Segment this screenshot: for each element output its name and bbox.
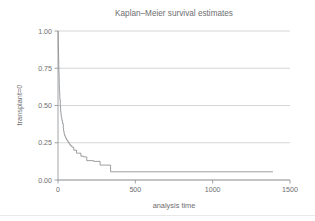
y-axis-title: transplant=0	[15, 85, 24, 126]
x-axis-title: analysis time	[153, 201, 196, 210]
y-tick-label-0.75: 0.75	[38, 65, 52, 73]
y-tick-label-0.5: 0.50	[38, 102, 52, 110]
y-tick-label-0: 0.00	[38, 177, 52, 185]
x-tick-label-500: 500	[129, 186, 141, 194]
y-tick-label-0.25: 0.25	[38, 139, 52, 147]
y-tick-label-1: 1.00	[38, 28, 52, 36]
chart-title: Kaplan–Meier survival estimates	[115, 9, 233, 18]
x-tick-label-0: 0	[56, 186, 60, 194]
x-tick-label-1000: 1000	[205, 186, 221, 194]
x-tick-label-1500: 1500	[282, 186, 298, 194]
kaplan-meier-survival-chart: Kaplan–Meier survival estimates 0.000.25…	[0, 0, 315, 221]
